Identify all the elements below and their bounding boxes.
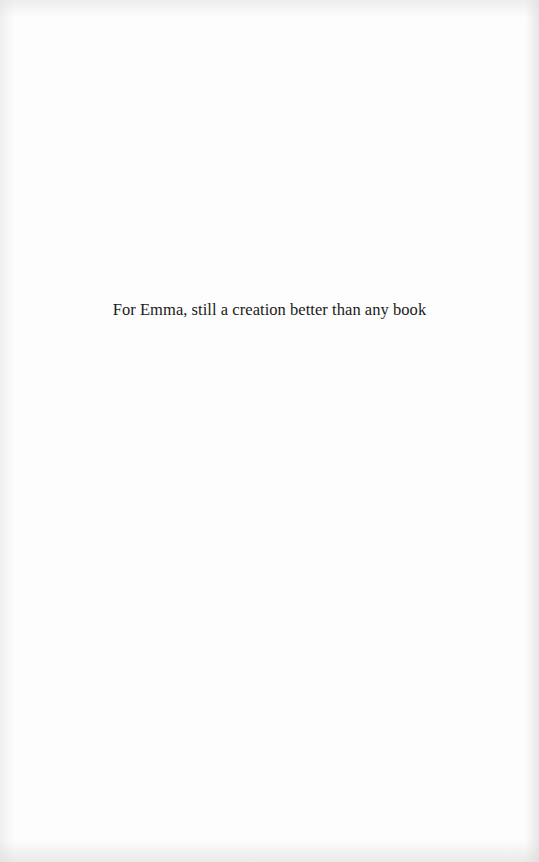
- paper-speck: [384, 314, 385, 315]
- dedication-text: For Emma, still a creation better than a…: [0, 300, 539, 320]
- book-page: For Emma, still a creation better than a…: [0, 0, 539, 862]
